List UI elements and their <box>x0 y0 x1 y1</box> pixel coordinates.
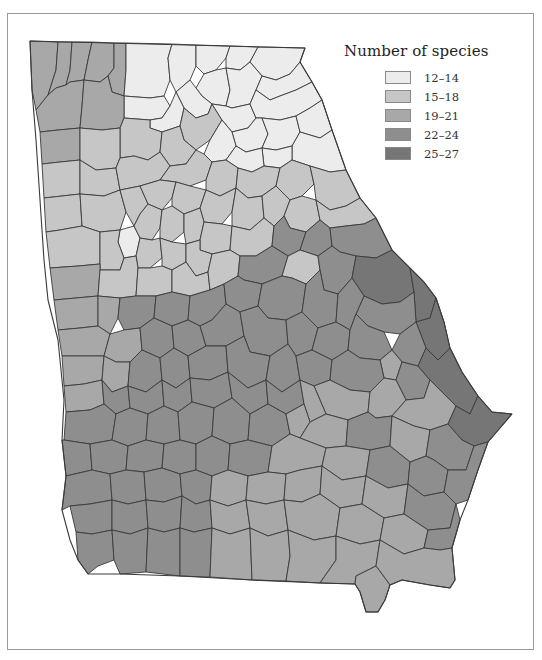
legend-label: 15–18 <box>424 90 459 104</box>
county <box>136 266 172 296</box>
legend-title: Number of species <box>344 42 524 60</box>
county <box>210 470 248 506</box>
county <box>70 500 112 534</box>
legend-item: 12–14 <box>385 68 524 87</box>
county <box>246 472 286 504</box>
county <box>80 190 126 232</box>
county <box>146 528 180 576</box>
county <box>126 440 164 472</box>
county <box>180 528 212 577</box>
county <box>76 530 114 574</box>
county <box>110 470 146 504</box>
county <box>144 468 182 502</box>
county <box>112 528 148 574</box>
county <box>162 440 196 474</box>
county <box>250 528 290 581</box>
county <box>112 500 148 534</box>
county <box>58 326 110 356</box>
legend-swatch <box>385 90 411 103</box>
legend-swatch <box>385 128 411 141</box>
legend-item: 22–24 <box>385 125 524 144</box>
county <box>40 128 80 164</box>
legend-label: 19–21 <box>424 109 459 123</box>
legend-swatch <box>385 109 411 122</box>
county <box>42 160 80 198</box>
county <box>124 43 172 98</box>
county <box>46 226 100 268</box>
county <box>50 264 100 300</box>
legend-swatch <box>385 147 411 160</box>
county <box>44 194 82 232</box>
county <box>112 408 148 446</box>
legend-label: 22–24 <box>424 128 459 142</box>
legend-label: 12–14 <box>424 71 459 85</box>
county <box>200 222 232 254</box>
county <box>346 412 392 450</box>
legend-item: 15–18 <box>385 87 524 106</box>
legend-label: 25–27 <box>424 147 459 161</box>
county <box>54 296 98 330</box>
legend: Number of species 12–14 15–18 19–21 22–2… <box>344 42 524 163</box>
legend-item: 19–21 <box>385 106 524 125</box>
legend-item: 25–27 <box>385 144 524 163</box>
county <box>90 440 128 474</box>
county <box>210 528 252 580</box>
county <box>196 436 230 476</box>
legend-swatch <box>385 71 411 84</box>
county <box>228 440 272 476</box>
county <box>160 206 184 242</box>
county <box>136 238 162 268</box>
